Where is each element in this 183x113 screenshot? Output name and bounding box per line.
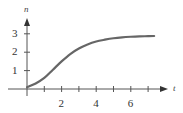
y-axis-arrow-icon bbox=[24, 18, 30, 26]
x-tick-label: 4 bbox=[93, 98, 99, 109]
y-tick-label: 1 bbox=[12, 65, 18, 76]
y-axis-label: n bbox=[24, 5, 29, 14]
logistic-curve bbox=[27, 36, 154, 87]
plot-area bbox=[0, 0, 183, 113]
y-tick-label: 2 bbox=[12, 46, 18, 57]
x-axis-arrow-icon bbox=[160, 86, 168, 92]
x-tick-label: 2 bbox=[59, 98, 65, 109]
x-axis-label: t bbox=[173, 84, 176, 93]
y-tick-label: 3 bbox=[12, 28, 18, 39]
x-tick-label: 6 bbox=[128, 98, 134, 109]
